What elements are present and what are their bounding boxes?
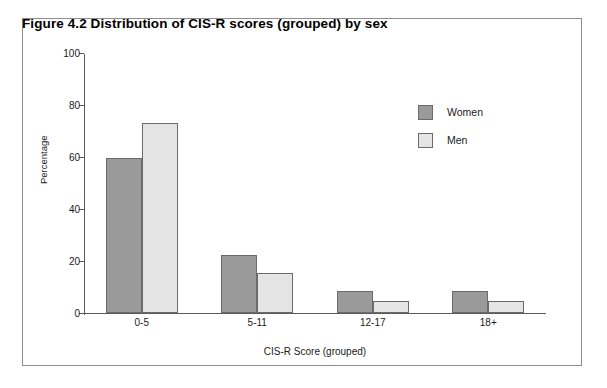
y-axis-tick-label: 0: [74, 308, 80, 319]
y-axis-tick: 60: [84, 157, 85, 158]
x-axis-tick-label: 5-11: [221, 317, 293, 328]
x-axis-tick-label: 18+: [452, 317, 524, 328]
bar-men-5-11: [257, 273, 293, 313]
x-axis-label: CIS-R Score (grouped): [84, 346, 546, 357]
y-axis-tick-label: 20: [69, 256, 80, 267]
y-axis-tick: 0: [84, 313, 85, 314]
y-axis-tick-label: 100: [63, 48, 80, 59]
bar-women-0-5: [106, 158, 142, 313]
bar-men-0-5: [142, 123, 178, 313]
legend-label-men: Men: [447, 134, 467, 146]
bar-group: 0-5: [106, 53, 178, 313]
x-axis-tick-label: 0-5: [106, 317, 178, 328]
legend-swatch-men: [418, 133, 433, 148]
bar-group: 12-17: [337, 53, 409, 313]
legend-label-women: Women: [447, 106, 483, 118]
bar-group: 18+: [452, 53, 524, 313]
bar-men-12-17: [373, 301, 409, 313]
x-axis-tick-label: 12-17: [337, 317, 409, 328]
y-axis-tick-label: 80: [69, 100, 80, 111]
bar-women-18+: [452, 291, 488, 313]
y-axis-tick-label: 60: [69, 152, 80, 163]
y-axis-tick: 80: [84, 105, 85, 106]
y-axis-label: Percentage: [38, 135, 49, 184]
x-axis-line: [84, 313, 546, 314]
figure-title: Figure 4.2 Distribution of CIS-R scores …: [22, 16, 388, 31]
y-axis-tick-label: 40: [69, 204, 80, 215]
bar-men-18+: [488, 301, 524, 313]
legend-swatch-women: [418, 105, 433, 120]
y-axis-tick: 100: [84, 53, 85, 54]
legend-item-women: Women: [418, 101, 483, 123]
y-axis-line: [84, 54, 85, 315]
y-axis-tick: 20: [84, 261, 85, 262]
y-axis-tick: 40: [84, 209, 85, 210]
bar-group: 5-11: [221, 53, 293, 313]
legend-item-men: Men: [418, 129, 483, 151]
chart-plot-area: 020406080100 0-55-1112-1718+ CIS-R Score…: [84, 54, 546, 314]
bar-women-12-17: [337, 291, 373, 313]
bar-women-5-11: [221, 255, 257, 314]
chart-legend: WomenMen: [418, 101, 483, 157]
